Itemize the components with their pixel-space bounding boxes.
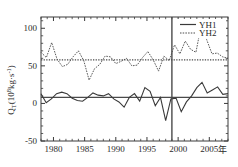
series-line-yh1 xyxy=(41,82,228,120)
x-tick-label: 1990 xyxy=(107,144,126,154)
x-tick-label: 1980 xyxy=(44,144,63,154)
chart-legend: YH1 YH2 xyxy=(176,19,226,38)
y-axis-ticks-right xyxy=(224,21,228,141)
y-axis-tick-labels: -50050100 xyxy=(24,23,38,146)
x-tick-label: 2005 xyxy=(200,144,219,154)
y-tick-label: 0 xyxy=(33,98,38,108)
line-chart: -50050100 198019851990199520002005 QT(10… xyxy=(0,0,238,167)
y-axis-label: QT(108kg·s-1) xyxy=(5,65,17,115)
y-axis-label-text: QT(108kg·s-1) xyxy=(5,65,17,115)
y-tick-label: 50 xyxy=(28,61,38,71)
x-tick-label: 1985 xyxy=(76,144,95,154)
x-tick-label: 2000 xyxy=(169,144,188,154)
x-tick-label: 1995 xyxy=(138,144,157,154)
x-axis-unit-label: 年 xyxy=(218,144,227,155)
y-tick-label: 100 xyxy=(24,23,38,33)
y-axis-ticks xyxy=(41,21,45,141)
y-tick-label: -50 xyxy=(25,136,37,146)
x-axis-ticks xyxy=(41,137,228,141)
legend-label-yh2: YH2 xyxy=(199,28,217,38)
x-axis-tick-labels: 198019851990199520002005 xyxy=(44,144,218,154)
chart-figure: -50050100 198019851990199520002005 QT(10… xyxy=(0,0,238,167)
